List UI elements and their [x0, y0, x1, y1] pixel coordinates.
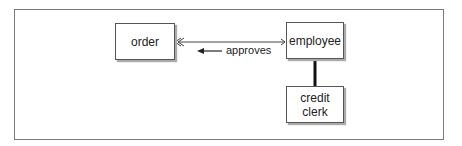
connectors	[0, 0, 462, 146]
relationship-label-approves: approves	[226, 44, 271, 56]
direction-arrow-icon	[197, 48, 204, 54]
entity-order: order	[115, 23, 175, 60]
entity-credit-clerk: credit clerk	[286, 86, 344, 123]
entity-employee: employee	[286, 22, 344, 59]
entity-employee-label: employee	[289, 34, 341, 48]
entity-credit-clerk-line1: credit	[300, 91, 329, 105]
entity-order-label: order	[131, 35, 159, 49]
entity-credit-clerk-line2: clerk	[302, 105, 327, 119]
